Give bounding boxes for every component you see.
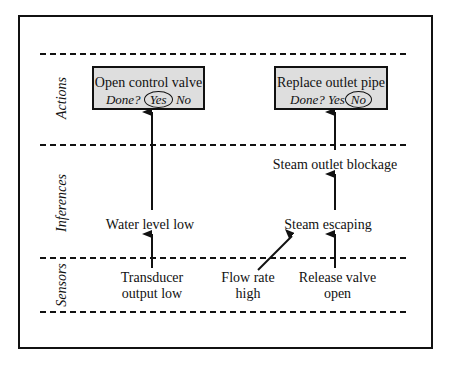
arrow-flow-to-steam: [258, 236, 292, 270]
arrows-layer: [0, 0, 451, 368]
